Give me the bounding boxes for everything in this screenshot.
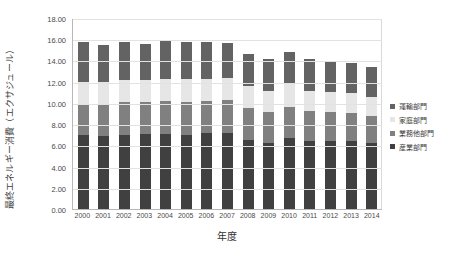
legend-label: 運輸部門 <box>399 101 427 111</box>
gridline <box>73 168 382 169</box>
x-axis-tick-label: 2009 <box>258 212 279 224</box>
y-axis-tick-label: 10.00 <box>47 99 66 108</box>
bar-column[interactable] <box>114 19 135 209</box>
bar-segment[interactable] <box>119 102 130 134</box>
y-axis-tick-label: 2.00 <box>51 184 66 193</box>
x-axis-tick-label: 2006 <box>196 212 217 224</box>
bar-segment[interactable] <box>243 86 254 108</box>
bar-segment[interactable] <box>284 138 295 209</box>
bar-segment[interactable] <box>366 97 377 116</box>
x-axis-tick-label: 2001 <box>93 212 114 224</box>
bar-column[interactable] <box>300 19 321 209</box>
bar-segment[interactable] <box>243 54 254 87</box>
bar-segment[interactable] <box>243 108 254 139</box>
bar-column[interactable] <box>279 19 300 209</box>
bar-segment[interactable] <box>160 41 171 79</box>
bar-segment[interactable] <box>98 82 109 104</box>
bar-segment[interactable] <box>304 91 315 112</box>
bar-segment[interactable] <box>304 141 315 209</box>
bar-segment[interactable] <box>98 105 109 137</box>
chart-legend: 運輸部門家庭部門業務他部門産業部門 <box>390 101 462 155</box>
y-axis-tick-label: 0.00 <box>51 206 66 215</box>
y-axis-tick-label: 6.00 <box>51 142 66 151</box>
gridline <box>73 19 382 20</box>
bar-segment[interactable] <box>222 133 233 209</box>
bar-segment[interactable] <box>346 113 357 141</box>
bar-column[interactable] <box>217 19 238 209</box>
gridline <box>73 189 382 190</box>
bar-column[interactable] <box>94 19 115 209</box>
legend-item[interactable]: 運輸部門 <box>390 101 462 111</box>
legend-item[interactable]: 家庭部門 <box>390 115 462 125</box>
x-axis-tick-label: 2014 <box>361 212 382 224</box>
bar-segment[interactable] <box>284 52 295 84</box>
bar-segment[interactable] <box>78 82 89 104</box>
bar-segment[interactable] <box>346 63 357 93</box>
bar-segment[interactable] <box>366 116 377 143</box>
legend-label: 家庭部門 <box>399 115 427 125</box>
plot-area <box>72 19 382 210</box>
bar-segment[interactable] <box>284 107 295 138</box>
legend-swatch-icon <box>390 144 395 149</box>
gridline <box>73 146 382 147</box>
y-axis-tick-label: 14.00 <box>47 57 66 66</box>
bar-segment[interactable] <box>201 133 212 209</box>
bar-column[interactable] <box>361 19 382 209</box>
bar-column[interactable] <box>135 19 156 209</box>
legend-label: 業務他部門 <box>399 128 434 138</box>
bar-segment[interactable] <box>263 91 274 113</box>
x-axis-tick-label: 2000 <box>72 212 93 224</box>
bar-segment[interactable] <box>263 59 274 91</box>
bar-column[interactable] <box>176 19 197 209</box>
bar-series-group <box>73 19 382 209</box>
legend-item[interactable]: 産業部門 <box>390 142 462 152</box>
bar-column[interactable] <box>238 19 259 209</box>
bar-column[interactable] <box>155 19 176 209</box>
bar-column[interactable] <box>73 19 94 209</box>
bar-segment[interactable] <box>78 104 89 135</box>
y-axis-tick-label: 4.00 <box>51 163 66 172</box>
bar-segment[interactable] <box>263 112 274 142</box>
bar-segment[interactable] <box>222 78 233 100</box>
bar-segment[interactable] <box>243 140 254 210</box>
bar-segment[interactable] <box>222 100 233 132</box>
bar-segment[interactable] <box>181 102 192 135</box>
bar-segment[interactable] <box>325 61 336 92</box>
bar-segment[interactable] <box>140 102 151 134</box>
y-axis-tick-label: 18.00 <box>47 15 66 24</box>
bar-segment[interactable] <box>181 42 192 79</box>
bar-segment[interactable] <box>160 134 171 209</box>
gridline <box>73 40 382 41</box>
gridline <box>73 61 382 62</box>
bar-stack <box>263 59 274 209</box>
bar-stack <box>140 44 151 210</box>
y-axis-tick-label: 16.00 <box>47 36 66 45</box>
bar-stack <box>284 52 295 209</box>
bar-segment[interactable] <box>325 112 336 141</box>
bar-segment[interactable] <box>160 101 171 133</box>
bar-segment[interactable] <box>325 92 336 113</box>
bar-segment[interactable] <box>346 141 357 209</box>
x-axis-tick-label: 2013 <box>341 212 362 224</box>
x-axis-title: 年度 <box>72 228 382 243</box>
bar-column[interactable] <box>197 19 218 209</box>
x-axis-tick-label: 2002 <box>113 212 134 224</box>
bar-segment[interactable] <box>325 141 336 209</box>
bar-column[interactable] <box>258 19 279 209</box>
bar-segment[interactable] <box>263 143 274 209</box>
bar-stack <box>346 63 357 209</box>
x-axis-tick-label: 2005 <box>175 212 196 224</box>
bar-segment[interactable] <box>304 59 315 90</box>
bar-segment[interactable] <box>98 45 109 83</box>
gridline <box>73 83 382 84</box>
bar-segment[interactable] <box>366 143 377 209</box>
bar-segment[interactable] <box>201 101 212 133</box>
bar-column[interactable] <box>341 19 362 209</box>
bar-column[interactable] <box>320 19 341 209</box>
x-axis-tick-label: 2007 <box>217 212 238 224</box>
legend-swatch-icon <box>390 131 395 136</box>
legend-item[interactable]: 業務他部門 <box>390 128 462 138</box>
legend-swatch-icon <box>390 104 395 109</box>
legend-swatch-icon <box>390 117 395 122</box>
x-axis-tick-label: 2008 <box>237 212 258 224</box>
